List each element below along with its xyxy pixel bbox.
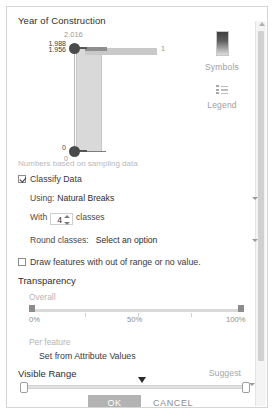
legend-list-icon[interactable]: [216, 85, 229, 94]
histogram-upper-handle[interactable]: [69, 43, 80, 54]
legend-label[interactable]: Legend: [191, 100, 253, 110]
classes-stepper[interactable]: 4: [50, 213, 73, 225]
histogram-lower-value-label: 0: [47, 144, 66, 151]
transparency-tick-25: [85, 313, 86, 317]
chevron-down-icon[interactable]: [249, 383, 255, 386]
visible-range-section-title: Visible Range: [18, 368, 76, 379]
chevron-down-icon[interactable]: [252, 239, 258, 242]
layer-style-panel: Year of Construction 2.016 1.988 1.956 0…: [6, 6, 268, 408]
transparency-handle-max[interactable]: [238, 305, 244, 312]
histogram-range-slider[interactable]: 2.016 1.988 1.956 0 0 1: [7, 27, 217, 155]
transparency-scale-mid: 50%: [127, 315, 142, 324]
draw-features-checkbox[interactable]: [18, 258, 26, 266]
round-classes-label: Round classes:: [30, 235, 89, 245]
transparency-tick-75: [191, 313, 192, 317]
classify-data-checkbox[interactable]: [18, 175, 26, 183]
transparency-handle-min[interactable]: [29, 305, 35, 312]
vertical-scrollbar[interactable]: [255, 21, 266, 406]
classes-count-value: 4: [57, 215, 62, 225]
transparency-scale-min: 0%: [29, 315, 40, 324]
classes-label: classes: [76, 212, 105, 222]
histogram-lower-handle[interactable]: [69, 146, 80, 157]
ok-button[interactable]: OK: [88, 395, 141, 408]
stepper-up-icon[interactable]: [64, 215, 70, 218]
classify-data-row[interactable]: Classify Data: [18, 174, 82, 184]
transparency-section-title: Transparency: [18, 275, 76, 286]
transparency-scale-max: 100%: [226, 315, 245, 324]
sampling-note: Numbers based on sampling data: [18, 159, 138, 168]
histogram-bar-count-label: 1: [161, 45, 165, 52]
classes-count-row[interactable]: With4classes: [30, 212, 105, 225]
classify-data-label: Classify Data: [30, 174, 82, 184]
visible-range-slider[interactable]: [23, 385, 247, 389]
transparency-slider[interactable]: [32, 309, 244, 312]
scroll-up-arrow-icon[interactable]: [259, 22, 265, 26]
histogram-max-label: 2.016: [64, 30, 83, 39]
round-classes-dropdown[interactable]: Round classes:Select an option: [30, 235, 258, 245]
with-label: With: [30, 212, 47, 222]
visible-range-handle-min[interactable]: [20, 382, 28, 393]
using-value: Natural Breaks: [57, 193, 114, 203]
symbols-label[interactable]: Symbols: [191, 62, 253, 72]
per-feature-label: Per feature: [29, 337, 70, 347]
histogram-upper-value-low: 1.956: [35, 47, 66, 53]
set-from-attribute-values-link[interactable]: Set from Attribute Values: [39, 351, 136, 361]
cancel-button[interactable]: CANCEL: [153, 395, 193, 408]
draw-features-label: Draw features with out of range or no va…: [30, 257, 201, 267]
round-classes-value: Select an option: [96, 235, 158, 245]
scrollbar-thumb[interactable]: [258, 31, 264, 361]
histogram-bar-cap: [85, 47, 107, 51]
gradient-swatch-icon[interactable]: [216, 31, 229, 56]
suggest-button[interactable]: Suggest: [209, 368, 241, 378]
histogram-distribution-band: [76, 47, 102, 151]
using-label: Using:: [30, 193, 54, 203]
histogram-track: [74, 47, 75, 151]
visible-range-current-marker-icon: [138, 377, 146, 383]
overall-label: Overall: [29, 292, 56, 302]
stepper-arrows-icon[interactable]: [64, 215, 70, 225]
draw-features-row[interactable]: Draw features with out of range or no va…: [18, 257, 201, 267]
page-title: Year of Construction: [18, 15, 106, 26]
using-method-dropdown[interactable]: Using:Natural Breaks: [30, 193, 258, 203]
stepper-down-icon[interactable]: [64, 222, 70, 225]
chevron-down-icon[interactable]: [252, 197, 258, 200]
style-rail: Symbols Legend: [191, 27, 253, 110]
histogram-upper-value-label: 1.988 1.956: [35, 41, 66, 52]
